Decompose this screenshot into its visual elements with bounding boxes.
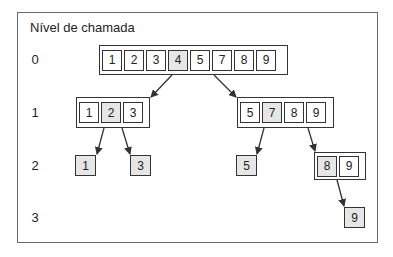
single-node-level-2: 5: [236, 155, 257, 176]
array-cell: 2: [124, 50, 144, 71]
pivot-cell: 4: [168, 50, 188, 71]
diagram-title: Nível de chamada: [30, 20, 135, 35]
single-node-level-3: 9: [344, 207, 365, 228]
array-cell: 3: [146, 50, 166, 71]
array-cell: 9: [339, 156, 359, 177]
pivot-cell: 7: [262, 102, 282, 123]
array-cell: 8: [234, 50, 254, 71]
pivot-cell: 2: [101, 102, 121, 123]
array-level-2-right: 8 9: [314, 152, 366, 180]
array-cell: 1: [102, 50, 122, 71]
single-node-level-2: 3: [130, 155, 151, 176]
array-level-0: 1 2 3 4 5 7 8 9: [99, 45, 288, 75]
array-level-1-left: 1 2 3: [76, 97, 150, 128]
array-cell: 9: [256, 50, 276, 71]
level-label-1: 1: [28, 105, 42, 120]
array-cell: 3: [123, 102, 143, 123]
level-label-3: 3: [28, 210, 42, 225]
pivot-cell: 8: [317, 156, 337, 177]
array-cell: 1: [79, 102, 99, 123]
single-node-level-2: 1: [75, 155, 96, 176]
array-cell: 5: [240, 102, 260, 123]
array-level-1-right: 5 7 8 9: [237, 97, 334, 128]
array-cell: 9: [306, 102, 326, 123]
array-cell: 7: [212, 50, 232, 71]
array-cell: 8: [284, 102, 304, 123]
array-cell: 5: [190, 50, 210, 71]
level-label-2: 2: [28, 158, 42, 173]
level-label-0: 0: [28, 52, 42, 67]
